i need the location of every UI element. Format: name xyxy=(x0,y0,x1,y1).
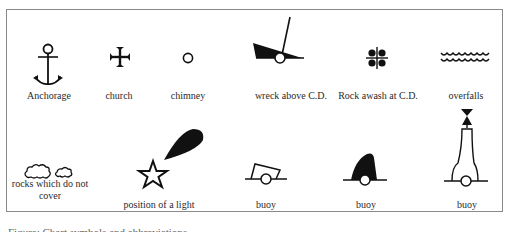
can-buoy-icon xyxy=(245,161,287,185)
symbol-label: wreck above C.D. xyxy=(255,90,327,102)
symbol-label: rocks which do not cover xyxy=(5,178,95,202)
symbol-label: position of a light xyxy=(124,199,195,211)
symbol-label: buoy xyxy=(457,199,477,211)
anchor-icon xyxy=(33,44,63,88)
conical-buoy-icon xyxy=(343,150,387,186)
symbol-label: buoy xyxy=(356,199,376,211)
small-circle-icon xyxy=(182,52,194,64)
figure-caption: Figure: Chart symbols and abbreviations xyxy=(8,226,187,232)
symbol-label: Rock awash at C.D. xyxy=(338,90,418,102)
cross-pattee-icon xyxy=(109,46,131,68)
wreck-icon xyxy=(252,17,316,65)
symbol-label: church xyxy=(105,90,132,102)
symbol-label: buoy xyxy=(256,199,276,211)
light-star-flare-icon xyxy=(135,125,207,193)
wavy-lines-icon xyxy=(440,50,492,64)
pillar-buoy-topmark-icon xyxy=(444,107,488,187)
rock-awash-icon xyxy=(366,47,388,69)
symbol-label: overfalls xyxy=(449,90,484,102)
symbol-label: Anchorage xyxy=(27,90,71,102)
symbol-label: chimney xyxy=(171,90,205,102)
